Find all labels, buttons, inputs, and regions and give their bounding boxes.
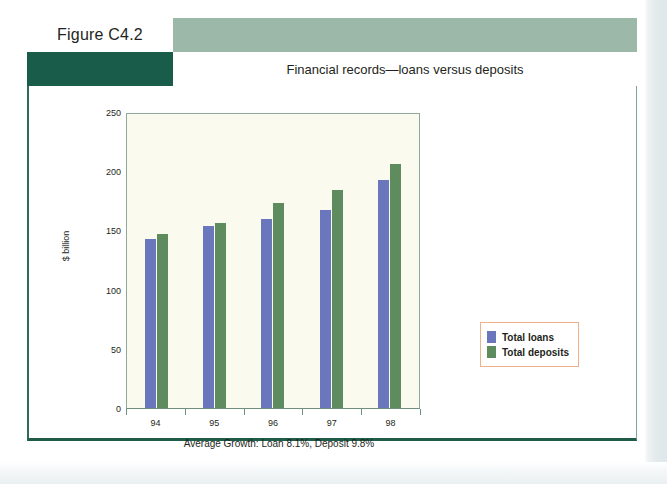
header-light-band	[173, 18, 637, 52]
bar-chart: $ billion 050100150200250 9495969798 Ave…	[29, 86, 639, 441]
plot-area	[126, 113, 420, 409]
x-tick-label: 94	[135, 418, 175, 428]
bar-groups	[127, 114, 419, 408]
y-tick-label: 150	[87, 226, 121, 236]
x-tick-label: 98	[371, 418, 411, 428]
bar-total-loans	[320, 210, 331, 408]
x-tick-mark	[420, 409, 421, 415]
bar-total-deposits	[332, 190, 343, 408]
page-edge-bottom	[0, 462, 667, 484]
bar-group	[203, 114, 226, 408]
page-edge-right	[644, 0, 667, 484]
legend-swatch-deposits-icon	[487, 346, 496, 358]
y-tick-label: 0	[87, 404, 121, 414]
bar-total-loans	[261, 219, 272, 408]
x-tick-mark	[302, 409, 303, 415]
bar-total-loans	[378, 180, 389, 409]
figure-box: $ billion 050100150200250 9495969798 Ave…	[27, 86, 637, 441]
x-tick-label: 97	[312, 418, 352, 428]
y-tick-label: 200	[87, 167, 121, 177]
x-tick-label: 95	[194, 418, 234, 428]
bar-total-deposits	[157, 234, 168, 408]
bar-total-deposits	[273, 203, 284, 408]
chart-legend: Total loans Total deposits	[480, 322, 579, 367]
legend-item-total-deposits: Total deposits	[487, 346, 569, 358]
bar-group	[261, 114, 284, 408]
bar-group	[320, 114, 343, 408]
y-tick-label: 100	[87, 286, 121, 296]
header-dark-block	[27, 52, 173, 86]
legend-item-total-loans: Total loans	[487, 331, 569, 343]
chart-annotation: Average Growth: Loan 8.1%, Deposit 9.8%	[89, 438, 469, 449]
bar-total-deposits	[215, 223, 226, 408]
x-tick-mark	[185, 409, 186, 415]
x-tick-mark	[244, 409, 245, 415]
y-axis-tick-labels: 050100150200250	[87, 113, 121, 409]
bar-group	[145, 114, 168, 408]
legend-swatch-loans-icon	[487, 331, 496, 343]
y-axis-title: $ billion	[61, 201, 71, 291]
x-axis-tick-labels: 9495969798	[126, 418, 420, 428]
bar-total-deposits	[390, 164, 401, 408]
bar-total-loans	[203, 226, 214, 408]
y-tick-label: 50	[87, 345, 121, 355]
figure-label: Figure C4.2	[27, 18, 173, 52]
legend-label-total-deposits: Total deposits	[502, 347, 569, 358]
legend-label-total-loans: Total loans	[502, 332, 554, 343]
bar-total-loans	[145, 239, 156, 408]
x-tick-label: 96	[253, 418, 293, 428]
bar-group	[378, 114, 401, 408]
y-tick-label: 250	[87, 108, 121, 118]
x-tick-mark	[361, 409, 362, 415]
x-tick-mark	[126, 409, 127, 415]
figure-title: Financial records—loans versus deposits	[173, 52, 637, 86]
